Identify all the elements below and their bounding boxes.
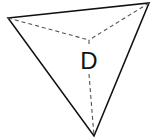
vertex-label: D bbox=[80, 47, 97, 74]
pyramid-diagram: D bbox=[0, 0, 152, 140]
outer-triangle bbox=[8, 3, 149, 136]
